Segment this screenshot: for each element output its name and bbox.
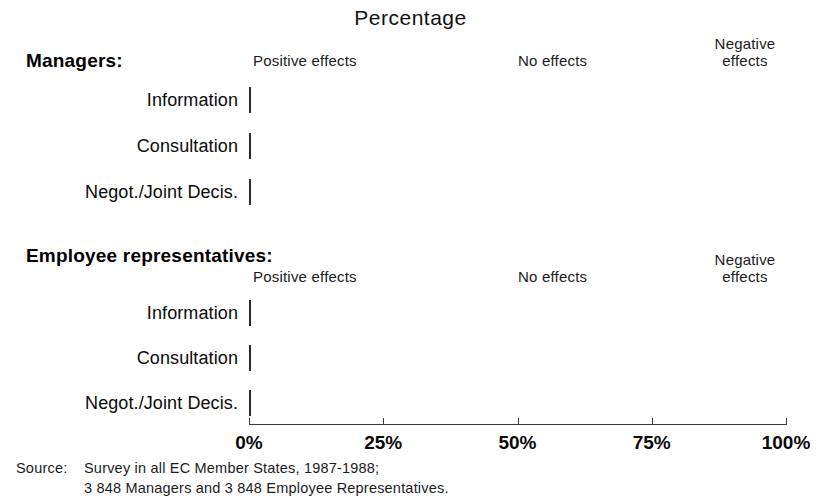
stacked-bar-chart: Percentage Managers: Positive effects No… — [0, 0, 821, 500]
bar-track — [249, 87, 251, 113]
bar-track — [249, 300, 251, 326]
legend-negative-employees-line2: effects — [722, 268, 767, 285]
bar-row: Negot./Joint Decis. — [249, 179, 786, 205]
chart-title: Percentage — [0, 6, 821, 30]
source-label: Source: — [16, 459, 84, 479]
bar-row: Consultation — [249, 345, 786, 371]
segment-negative-effects — [250, 88, 251, 112]
bar-category-label: Consultation — [137, 348, 238, 369]
axis-tick — [518, 418, 519, 425]
legend-positive-employees: Positive effects — [253, 268, 357, 285]
bar-row: Information — [249, 87, 786, 113]
bar-category-label: Information — [147, 90, 238, 111]
segment-negative-effects — [250, 134, 251, 158]
axis-tick — [383, 418, 384, 425]
legend-negative-managers: Negative effects — [700, 36, 790, 70]
legend-negative-managers-line1: Negative — [715, 35, 776, 52]
group-heading-employee-representatives: Employee representatives: — [26, 245, 273, 267]
axis-tick-label: 25% — [364, 432, 402, 454]
segment-positive-effects — [250, 134, 251, 158]
axis-tick-label: 75% — [633, 432, 671, 454]
segment-negative-effects — [250, 346, 251, 370]
bar-track — [249, 133, 251, 159]
segment-positive-effects — [250, 180, 251, 204]
legend-negative-managers-line2: effects — [722, 52, 767, 69]
segment-negative-effects — [250, 391, 251, 415]
bar-row: Consultation — [249, 133, 786, 159]
segment-positive-effects — [250, 346, 251, 370]
bar-row: Negot./Joint Decis. — [249, 390, 786, 416]
axis-tick — [249, 418, 250, 425]
segment-positive-effects — [250, 391, 251, 415]
bar-track — [249, 345, 251, 371]
bar-track — [249, 179, 251, 205]
source-line-2: 3 848 Managers and 3 848 Employee Repres… — [84, 479, 449, 499]
bar-category-label: Negot./Joint Decis. — [85, 393, 238, 414]
legend-no-effects-employees: No effects — [518, 268, 587, 285]
segment-negative-effects — [250, 180, 251, 204]
group-heading-managers: Managers: — [26, 50, 123, 72]
segment-positive-effects — [250, 88, 251, 112]
bar-category-label: Information — [147, 303, 238, 324]
axis-tick — [786, 418, 787, 425]
legend-positive-managers: Positive effects — [253, 52, 357, 69]
legend-negative-employees: Negative effects — [700, 252, 790, 286]
axis-tick-label: 0% — [235, 432, 262, 454]
segment-negative-effects — [250, 301, 251, 325]
bar-category-label: Negot./Joint Decis. — [85, 182, 238, 203]
axis-tick — [652, 418, 653, 425]
source-line-1: Survey in all EC Member States, 1987-198… — [84, 460, 379, 476]
axis-tick-label: 100% — [762, 432, 811, 454]
source-note: Source:Survey in all EC Member States, 1… — [16, 459, 449, 498]
bar-track — [249, 390, 251, 416]
x-axis: 0%25%50%75%100% — [249, 424, 786, 425]
axis-tick-label: 50% — [498, 432, 536, 454]
segment-positive-effects — [250, 301, 251, 325]
bar-row: Information — [249, 300, 786, 326]
legend-negative-employees-line1: Negative — [715, 251, 776, 268]
bar-category-label: Consultation — [137, 136, 238, 157]
legend-no-effects-managers: No effects — [518, 52, 587, 69]
